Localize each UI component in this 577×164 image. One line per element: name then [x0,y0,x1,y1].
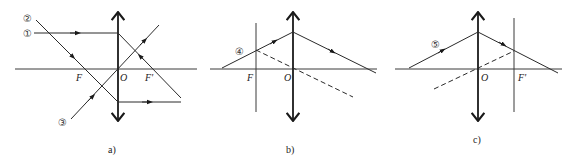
ray-3-arrow [88,96,93,101]
ray-4 [222,32,376,73]
focus-label-F-prime: F' [517,72,527,83]
ray-5-arrow [438,50,443,53]
panel-caption-c: c) [473,134,481,146]
ray-1 [34,33,181,98]
lens-ray-diagram: ② ① ③ F O F' a) ④ F O b) ⑤ O F' c) [0,0,577,164]
center-label-O: O [120,72,127,83]
panel-b: ④ F O b) [210,13,377,156]
focus-label-F: F [246,72,254,83]
panel-c: ⑤ O F' c) [395,13,562,146]
ray-4-arrow [270,41,275,44]
focus-label-F-prime: F' [144,72,154,83]
ray-label-5: ⑤ [431,39,440,50]
ray-label-2: ② [23,13,32,24]
center-label-O: O [481,72,488,83]
panel-caption-a: a) [108,144,116,156]
auxiliary-ray-dashed [434,51,514,89]
ray-2 [36,20,181,102]
panel-a: ② ① ③ F O F' a) [15,13,197,156]
ray-3-arrow-2 [140,40,145,45]
ray-4-arrow-2 [328,49,333,52]
center-label-O: O [284,72,291,83]
ray-2-arrow [68,52,73,57]
focus-label-F: F [75,72,83,83]
ray-1-arrow-2 [140,56,144,60]
auxiliary-ray-dashed [256,50,353,97]
panel-caption-b: b) [286,144,294,156]
ray-label-3: ③ [58,117,67,128]
ray-label-1: ① [23,28,32,39]
ray-label-4: ④ [235,46,244,57]
